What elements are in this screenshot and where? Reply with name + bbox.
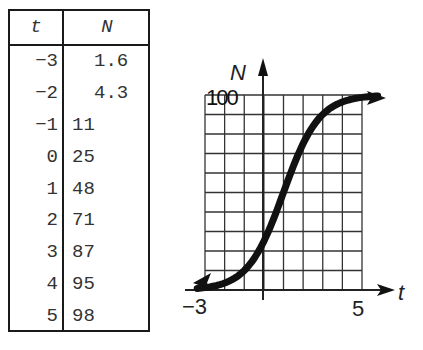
y-axis-arrow-icon <box>258 58 268 76</box>
logistic-chart: N 100 −3 5 t <box>0 0 423 350</box>
y-axis-label: N <box>230 60 246 85</box>
x-axis-label: t <box>398 280 405 305</box>
x-tick-neg3: −3 <box>182 294 207 319</box>
y-tick-100: 100 <box>206 85 238 110</box>
x-tick-5: 5 <box>352 296 364 321</box>
